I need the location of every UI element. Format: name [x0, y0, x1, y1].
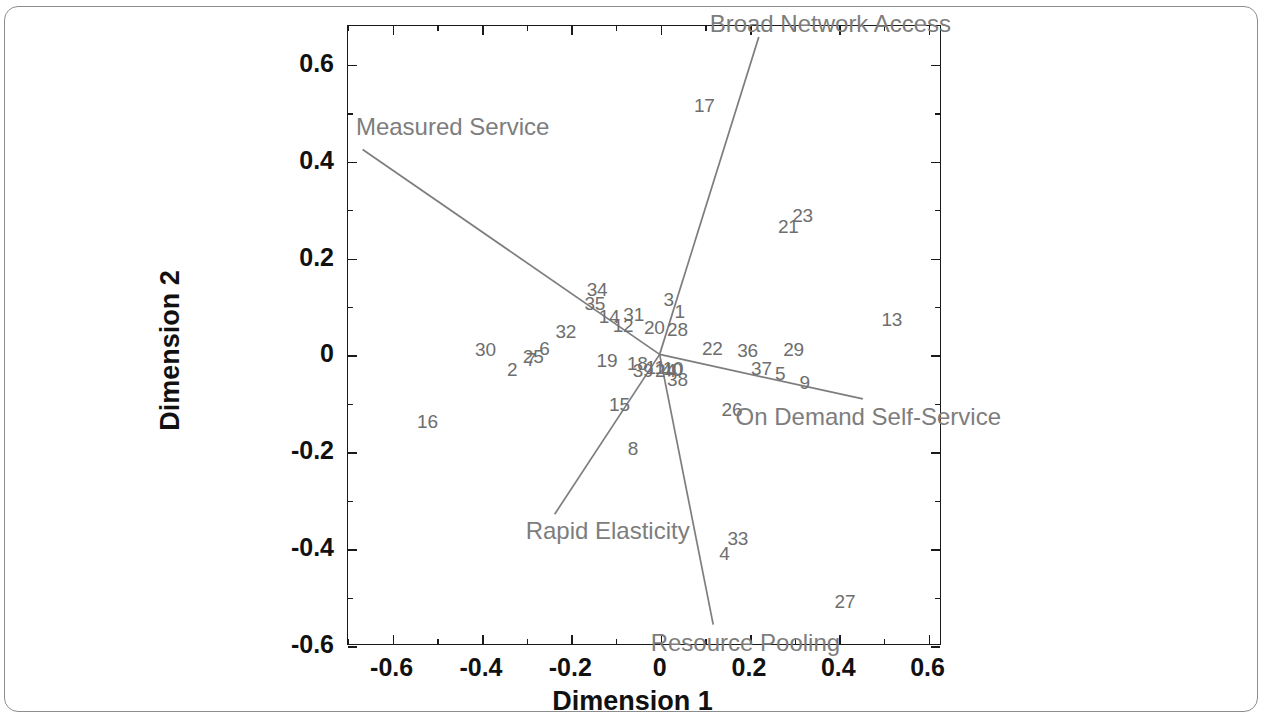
data-point-label: 9	[800, 372, 810, 394]
tick-mark	[527, 26, 528, 31]
tick-mark	[931, 355, 940, 357]
data-point-label: 13	[881, 309, 902, 331]
data-point-label: 31	[623, 304, 644, 326]
data-point-label: 22	[702, 338, 723, 360]
data-point-label: 16	[417, 411, 438, 433]
data-point-label: 2	[507, 359, 517, 381]
tick-mark	[571, 26, 573, 35]
vector-label-resource-pooling: Resource Pooling	[651, 629, 840, 657]
tick-mark	[935, 113, 940, 114]
data-point-label: 3	[663, 289, 673, 311]
tick-mark	[527, 639, 528, 644]
tick-mark	[348, 639, 349, 644]
tick-mark	[348, 404, 353, 405]
y-tick-label: -0.4	[291, 533, 334, 562]
tick-mark	[348, 452, 357, 454]
y-tick-label: 0.4	[299, 146, 334, 175]
data-point-label: 27	[835, 591, 856, 613]
tick-mark	[348, 259, 357, 261]
data-point-label: 15	[609, 394, 630, 416]
tick-mark	[931, 162, 940, 164]
data-point-label: 25	[523, 346, 544, 368]
x-tick-label: 0.4	[821, 653, 856, 682]
data-point-label: 32	[555, 321, 576, 343]
tick-mark	[616, 639, 617, 644]
vector-label-rapid-elasticity: Rapid Elasticity	[526, 517, 690, 545]
data-point-label: 28	[667, 319, 688, 341]
tick-mark	[931, 646, 940, 648]
biplot-figure: Dimension 2 Dimension 1 0.60.40.20-0.2-0…	[0, 0, 1265, 724]
y-tick-label: 0	[320, 339, 334, 368]
x-tick-label: -0.2	[549, 653, 592, 682]
tick-mark	[931, 65, 940, 67]
x-tick-label: 0.2	[732, 653, 767, 682]
tick-mark	[348, 65, 357, 67]
tick-mark	[348, 549, 357, 551]
tick-mark	[935, 501, 940, 502]
tick-mark	[482, 26, 484, 35]
tick-mark	[482, 635, 484, 644]
tick-mark	[348, 646, 357, 648]
data-point-label: 40	[662, 359, 683, 381]
tick-mark	[348, 210, 353, 211]
tick-mark	[348, 307, 353, 308]
vector-label-on-demand-self-service: On Demand Self-Service	[736, 403, 1001, 431]
tick-mark	[348, 26, 349, 31]
data-point-label: 5	[775, 363, 785, 385]
vector-label-broad-network-access: Broad Network Access	[710, 10, 951, 38]
data-point-label: 23	[792, 205, 813, 227]
data-point-label: 33	[727, 528, 748, 550]
y-tick-label: 0.6	[299, 49, 334, 78]
tick-mark	[616, 26, 617, 31]
tick-mark	[705, 26, 706, 31]
data-point-label: 30	[475, 339, 496, 361]
tick-mark	[571, 635, 573, 644]
x-tick-label: 0	[653, 653, 667, 682]
data-point-label: 29	[783, 339, 804, 361]
y-tick-label: -0.6	[291, 630, 334, 659]
tick-mark	[931, 259, 940, 261]
tick-mark	[661, 26, 663, 35]
tick-mark	[935, 307, 940, 308]
tick-mark	[935, 598, 940, 599]
tick-mark	[931, 549, 940, 551]
y-axis-title: Dimension 2	[155, 161, 186, 541]
tick-mark	[393, 26, 395, 35]
data-point-label: 17	[694, 95, 715, 117]
tick-mark	[929, 635, 931, 644]
tick-mark	[348, 355, 357, 357]
tick-mark	[348, 162, 357, 164]
tick-mark	[348, 113, 353, 114]
tick-mark	[884, 639, 885, 644]
y-tick-label: -0.2	[291, 436, 334, 465]
data-point-label: 37	[751, 358, 772, 380]
data-point-label: 39	[633, 360, 654, 382]
tick-mark	[437, 639, 438, 644]
x-tick-label: -0.4	[459, 653, 502, 682]
vector-label-measured-service: Measured Service	[356, 113, 549, 141]
data-point-label: 8	[628, 438, 638, 460]
data-point-label: 19	[597, 350, 618, 372]
x-tick-label: -0.6	[370, 653, 413, 682]
tick-mark	[437, 26, 438, 31]
tick-mark	[348, 501, 353, 502]
tick-mark	[931, 452, 940, 454]
data-point-label: 35	[584, 293, 605, 315]
x-tick-label: 0.6	[910, 653, 945, 682]
y-tick-label: 0.2	[299, 243, 334, 272]
tick-mark	[348, 598, 353, 599]
data-point-label: 20	[644, 317, 665, 339]
tick-mark	[393, 635, 395, 644]
x-axis-title: Dimension 1	[0, 686, 1265, 717]
tick-mark	[935, 210, 940, 211]
